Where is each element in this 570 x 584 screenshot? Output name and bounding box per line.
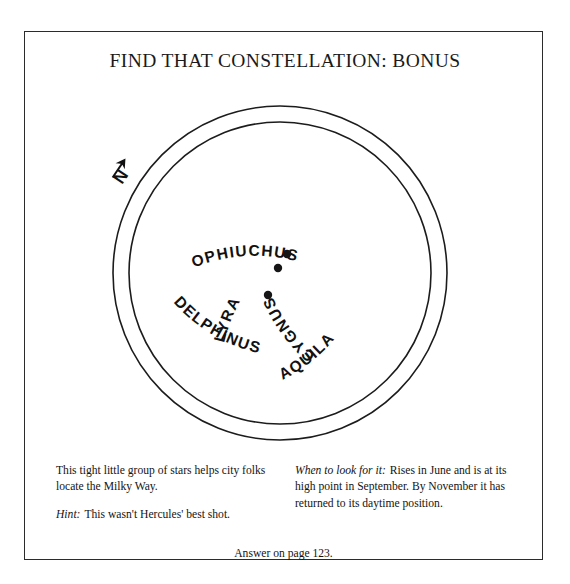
puzzle-page: FIND THAT CONSTELLATION: BONUS OPHIUCHUS… [0,0,570,584]
ring-label-delphinus: DELPHINUS [171,293,263,357]
answer-reference: Answer on page 123. [24,547,543,560]
hint-line: Hint:This wasn't Hercules' best shot. [56,507,271,523]
caption-column-right: When to look for it:Rises in June and is… [295,463,527,512]
star-map: OPHIUCHUS LYRA CYGNUS DELPHINUS AQUILA N [100,93,460,453]
hint-label: Hint: [56,508,84,521]
inner-circle [129,122,431,424]
when-line: When to look for it:Rises in June and is… [295,463,527,512]
star-point [283,250,291,258]
hint-text: This wasn't Hercules' best shot. [84,508,230,521]
star-point [264,291,272,299]
ring-label-delphinus-text: DELPHINUS [171,293,263,357]
caption-column-left: This tight little group of stars helps c… [56,463,271,523]
outer-circle [113,106,447,440]
north-indicator: N [107,155,138,187]
star-point [274,264,282,272]
when-label: When to look for it: [295,464,390,477]
description-text: This tight little group of stars helps c… [56,463,271,496]
page-title: FIND THAT CONSTELLATION: BONUS [0,50,570,72]
caption-block: This tight little group of stars helps c… [24,463,543,560]
